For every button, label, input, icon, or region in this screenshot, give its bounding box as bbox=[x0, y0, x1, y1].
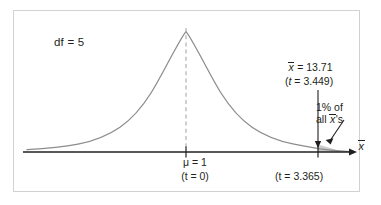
mean-label: μ = 1 bbox=[172, 156, 218, 168]
mean-t-label: (t = 0) bbox=[172, 170, 218, 182]
x-axis-label: x bbox=[358, 140, 365, 153]
xbar-value-text: = 13.71 bbox=[297, 61, 332, 73]
figure-container: df = 5 x = 13.71 (t = 3.449) 1% of all x… bbox=[0, 0, 381, 205]
mu-symbol: μ bbox=[183, 156, 189, 168]
xbar-symbol: x bbox=[288, 62, 294, 73]
tail-percent-label: 1% of all x's bbox=[316, 101, 343, 126]
xbar-t-label: (t = 3.449) bbox=[285, 75, 333, 87]
tail-t-label: (t = 3.365) bbox=[275, 170, 323, 182]
mu-value-text: = 1 bbox=[192, 156, 207, 168]
distribution-curve bbox=[27, 32, 350, 152]
xbar-value-label: x = 13.71 bbox=[288, 61, 333, 73]
axis-xbar-symbol: x bbox=[358, 140, 365, 151]
t-symbol: t bbox=[289, 75, 292, 87]
tail-callout-arrowhead bbox=[326, 138, 334, 144]
percent-line-2-suffix: 's bbox=[336, 113, 343, 125]
percent-line-1: 1% of bbox=[316, 101, 343, 113]
df-label: df = 5 bbox=[54, 36, 84, 50]
percent-line-2: all bbox=[316, 113, 327, 125]
x-axis-arrowhead bbox=[349, 149, 357, 156]
xbar-t-text: = 3.449) bbox=[294, 75, 333, 87]
